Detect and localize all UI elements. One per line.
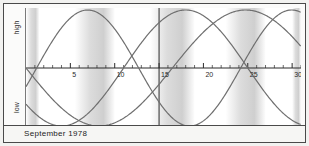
x-tick-label-30: 30 [294,71,301,78]
biorhythm-plot-svg: 51015202530 [26,8,301,128]
biorhythm-chart-window: high low 51015202530 [0,0,309,146]
x-tick-label-15: 15 [161,71,169,78]
y-axis-high-label: high [13,8,20,48]
plot-area[interactable]: 51015202530 [26,8,301,128]
x-tick-label-25: 25 [250,71,258,78]
x-tick-label-10: 10 [117,71,125,78]
caption-month-year: September 1978 [24,129,87,138]
caption-bar: September 1978 [4,125,305,142]
chart-frame: high low 51015202530 [3,3,306,143]
x-tick-label-5: 5 [72,71,76,78]
x-tick-label-20: 20 [205,71,213,78]
y-axis-low-label: low [13,88,20,128]
y-axis-label-gutter: high low [8,8,26,128]
